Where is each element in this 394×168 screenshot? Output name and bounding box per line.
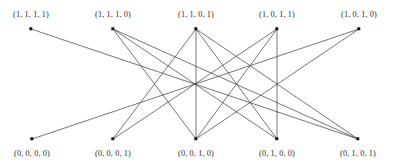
node-label-t2: (1, 1, 1, 0)	[95, 11, 131, 19]
graph-edge	[113, 29, 358, 139]
node-label-t4: (1, 0, 1, 1)	[259, 11, 295, 19]
node-label-b1: (0, 0, 0, 0)	[14, 150, 50, 158]
node-label-b3: (0, 0, 1, 0)	[178, 150, 214, 158]
node-label-t3: (1, 1, 0, 1)	[178, 11, 214, 19]
node-label-b4: (0, 1, 0, 0)	[259, 150, 295, 158]
node-label-b2: (0, 0, 0, 1)	[95, 150, 131, 158]
graph-edge-canvas	[0, 0, 394, 168]
bipartite-graph-figure: (1, 1, 1, 1)(1, 1, 1, 0)(1, 1, 0, 1)(1, …	[0, 0, 394, 168]
node-label-b5: (0, 1, 0, 1)	[340, 150, 376, 158]
node-label-t5: (1, 0, 1, 0)	[341, 11, 377, 19]
node-label-t1: (1, 1, 1, 1)	[13, 11, 49, 19]
edge-group	[31, 29, 359, 139]
